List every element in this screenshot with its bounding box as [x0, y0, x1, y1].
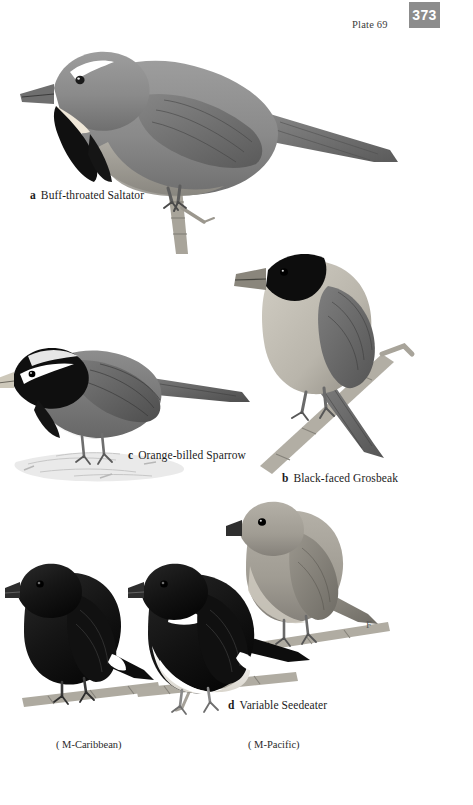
species-key-b: b	[282, 472, 289, 484]
bird-eye	[36, 580, 44, 587]
caption-species-d: dVariable Seedeater	[228, 699, 327, 711]
field-guide-plate: Plate 69 373	[0, 0, 473, 805]
bird-bill	[128, 582, 144, 598]
female-annotation: F	[366, 619, 372, 630]
page-number: 373	[412, 7, 436, 23]
caption-species-a: aBuff-throated Saltator	[30, 189, 144, 201]
bird-eye	[258, 518, 266, 526]
caption-species-b: bBlack-faced Grosbeak	[282, 472, 398, 484]
bird-eye	[29, 371, 36, 377]
bird-bill	[5, 582, 20, 598]
bird-eye	[75, 76, 84, 84]
subspecies-label-pacific: ( M-Pacific)	[248, 739, 300, 750]
illustration-black-faced-grosbeak	[232, 228, 442, 478]
caption-species-c: cOrange-billed Sparrow	[128, 449, 246, 461]
species-key-c: c	[128, 449, 133, 461]
illustration-orange-billed-sparrow	[4, 330, 254, 510]
species-name-b: Black-faced Grosbeak	[294, 472, 399, 484]
perch-branch	[168, 188, 214, 254]
species-key-d: d	[228, 699, 235, 711]
bird-eye	[280, 268, 288, 276]
species-name-d: Variable Seedeater	[240, 699, 328, 711]
species-name-c: Orange-billed Sparrow	[138, 449, 246, 461]
bird-head	[142, 564, 208, 620]
illustration-buff-throated-saltator	[18, 22, 418, 262]
species-key-a: a	[30, 189, 36, 201]
bird-eye	[160, 580, 168, 587]
bird-bill	[226, 520, 242, 536]
subspecies-label-caribbean: ( M-Caribbean)	[56, 739, 122, 750]
species-name-a: Buff-throated Saltator	[41, 189, 144, 201]
bird-bill	[0, 372, 14, 388]
